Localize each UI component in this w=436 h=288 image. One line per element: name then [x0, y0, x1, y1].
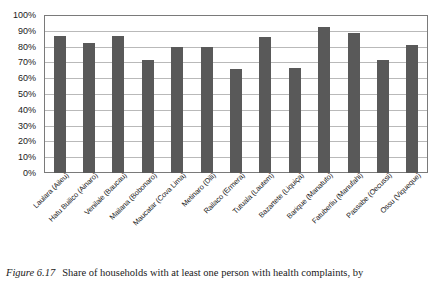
y-axis-tick-label: 30% — [0, 121, 40, 131]
figure-caption-text: Share of households with at least one pe… — [62, 267, 363, 278]
x-axis-tick-label-text: Maucatar (Cova Lima) — [131, 171, 188, 228]
figure-number: Figure 6.17 — [6, 267, 55, 278]
x-axis-tick-label-text: Fatuberliu (Manufahi) — [310, 171, 365, 226]
bar — [54, 36, 66, 173]
y-axis-tick-label: 20% — [0, 136, 40, 146]
figure-caption: Figure 6.17Share of households with at l… — [6, 266, 430, 279]
y-axis-tick-label: 50% — [0, 89, 40, 99]
y-axis-tick-label: 10% — [0, 152, 40, 162]
bar-slot — [45, 16, 74, 173]
y-axis-tick-label: 100% — [0, 10, 40, 20]
y-axis-tick-label: 80% — [0, 42, 40, 52]
y-axis-tick-label: 70% — [0, 57, 40, 67]
y-axis-tick-label: 60% — [0, 73, 40, 83]
figure-container: 0%10%20%30%40%50%60%70%80%90%100% Laular… — [0, 0, 436, 288]
y-axis-tick-label: 0% — [0, 168, 40, 178]
y-axis-tick-label: 40% — [0, 105, 40, 115]
y-axis-tick-label: 90% — [0, 26, 40, 36]
x-axis-labels: Laulara (Aileu)Hatu Builico (Ainaro)Veni… — [45, 175, 427, 255]
